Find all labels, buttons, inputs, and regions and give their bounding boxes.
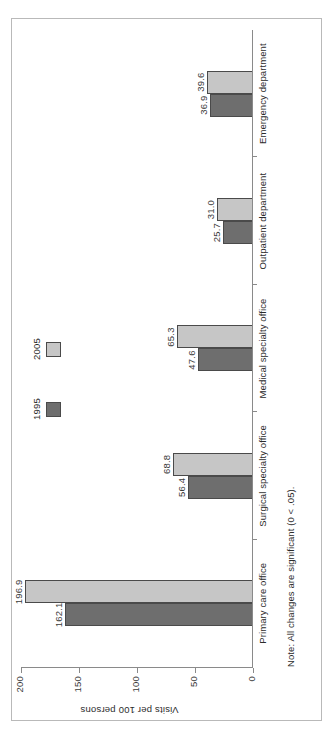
bar-2005-3: 31.0	[217, 198, 253, 221]
category-label-1: Surgical specialty office	[257, 412, 268, 539]
bar-value-label: 65.3	[165, 327, 176, 346]
category-separator-tick	[253, 156, 257, 157]
value-tick-100: 100	[137, 668, 138, 714]
bar-1995-3: 25.7	[223, 221, 253, 244]
bar-value-label: 25.7	[211, 222, 222, 241]
bar-value-label: 56.4	[175, 477, 186, 496]
bar-group: 162.1196.9	[21, 539, 253, 666]
value-tick-50: 50	[195, 668, 196, 714]
bar-value-label: 39.6	[195, 72, 206, 91]
bar-1995-4: 36.9	[210, 93, 253, 116]
value-tick-mark-100	[137, 668, 138, 673]
category-label-4: Emergency department	[257, 29, 268, 156]
bar-value-label: 47.6	[185, 350, 196, 369]
bar-group: 56.468.8	[21, 412, 253, 539]
bar-1995-0: 162.1	[64, 603, 252, 626]
bar-2005-1: 68.8	[173, 452, 253, 475]
value-tick-label-100: 100	[130, 676, 141, 710]
bar-chart-figure: Visits per 100 persons 1995 2005 200	[13, 20, 321, 720]
value-tick-label-200: 200	[14, 676, 25, 710]
value-axis-title: Visits per 100 persons	[13, 702, 245, 720]
plot-area: 200 150 100 50 0	[21, 30, 253, 668]
category-separator-tick	[253, 411, 257, 412]
bar-group: 47.665.3	[21, 284, 253, 411]
category-labels: Primary care officeSurgical specialty of…	[257, 30, 268, 667]
value-tick-mark-0	[253, 668, 254, 673]
value-tick-mark-50	[195, 668, 196, 673]
value-tick-mark-200	[21, 668, 22, 673]
value-tick-label-0: 0	[246, 676, 257, 710]
category-label-3: Outpatient department	[257, 157, 268, 284]
bar-2005-2: 65.3	[177, 325, 253, 348]
bar-value-label: 162.1	[52, 602, 63, 627]
value-tick-200: 200	[21, 668, 22, 714]
category-separator-tick	[253, 538, 257, 539]
value-tick-label-50: 50	[188, 676, 199, 710]
bar-value-label: 68.8	[161, 454, 172, 473]
bar-value-label: 36.9	[198, 95, 209, 114]
value-tick-0: 0	[253, 668, 254, 714]
bar-groups: 162.1196.956.468.847.665.325.731.036.939…	[21, 30, 253, 667]
value-tick-mark-150	[79, 668, 80, 673]
figure-page-frame: Visits per 100 persons 1995 2005 200	[11, 18, 322, 721]
category-separator-tick	[253, 283, 257, 284]
chart-note: Note: All changes are significant (0 < .…	[285, 486, 296, 667]
value-tick-label-150: 150	[72, 676, 83, 710]
category-label-0: Primary care office	[257, 539, 268, 666]
bar-1995-2: 47.6	[197, 348, 252, 371]
value-tick-150: 150	[79, 668, 80, 714]
category-axis-line	[252, 30, 253, 668]
rotated-figure-canvas: Visits per 100 persons 1995 2005 200	[13, 20, 321, 720]
bar-1995-1: 56.4	[187, 475, 252, 498]
bar-value-label: 196.9	[12, 579, 23, 604]
category-label-2: Medical specialty office	[257, 284, 268, 411]
bar-group: 25.731.0	[21, 157, 253, 284]
bar-2005-4: 39.6	[207, 70, 253, 93]
value-axis-title-text: Visits per 100 persons	[79, 705, 177, 716]
bar-value-label: 31.0	[205, 199, 216, 218]
bar-2005-0: 196.9	[24, 580, 252, 603]
bar-group: 36.939.6	[21, 29, 253, 156]
